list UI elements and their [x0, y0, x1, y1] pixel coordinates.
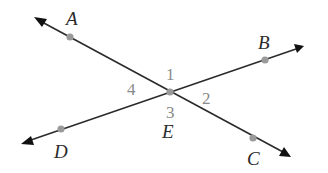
label-e: E: [161, 121, 174, 142]
point-c: [249, 134, 256, 141]
angle-label-1: 1: [166, 65, 175, 84]
label-a: A: [64, 8, 78, 29]
label-c: C: [247, 148, 260, 169]
angle-label-3: 3: [166, 103, 175, 122]
label-d: D: [53, 141, 68, 162]
angle-label-2: 2: [202, 89, 211, 108]
point-a: [66, 33, 73, 40]
arrowhead-b-icon: [294, 44, 304, 53]
point-d: [57, 125, 64, 132]
point-e: [166, 88, 173, 95]
arrowhead-a-icon: [34, 17, 47, 27]
intersecting-lines-diagram: A B C D E 1 2 3 4: [0, 0, 328, 173]
angle-label-4: 4: [127, 80, 136, 99]
point-b: [261, 56, 268, 63]
arrowhead-c-icon: [279, 147, 291, 157]
label-b: B: [258, 32, 270, 53]
arrowhead-d-icon: [21, 136, 34, 145]
